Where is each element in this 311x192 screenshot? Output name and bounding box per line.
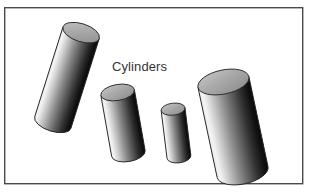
cylinder-3-body bbox=[161, 108, 191, 165]
cylinder-3 bbox=[160, 102, 191, 164]
cylinder-4 bbox=[196, 65, 271, 189]
cylinders-illustration: Cylinders bbox=[0, 0, 311, 192]
cylinder-1 bbox=[32, 18, 102, 136]
cylinders-figure: Cylinders bbox=[0, 0, 311, 192]
cylinder-2 bbox=[99, 82, 146, 165]
figure-caption: Cylinders bbox=[112, 59, 167, 74]
